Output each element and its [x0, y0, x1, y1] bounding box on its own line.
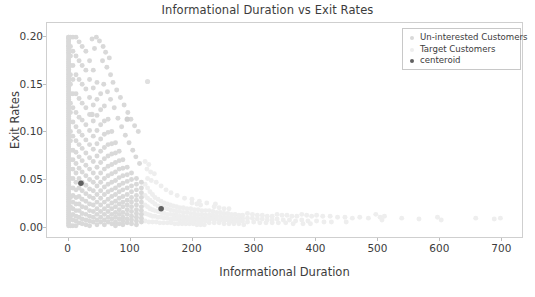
- x-tick-label: 600: [429, 242, 449, 254]
- legend-marker-icon: [407, 51, 417, 70]
- series-un-interested-customers: [66, 35, 144, 229]
- x-tick-label: 300: [243, 242, 263, 254]
- legend-item: Target Customers: [407, 43, 516, 54]
- legend-item-label: Un-interested Customers: [420, 32, 528, 42]
- y-tick-label: 0.20: [20, 30, 43, 42]
- legend-item-label: Target Customers: [420, 44, 496, 54]
- legend-item: Un-interested Customers: [407, 32, 516, 43]
- legend-item-label: centeroid: [420, 55, 461, 65]
- x-tick-mark: [377, 238, 378, 241]
- series-target-customers: [143, 159, 503, 227]
- y-tick-label: 0.05: [20, 173, 43, 185]
- x-tick-mark: [192, 238, 193, 241]
- x-tick-label: 0: [64, 242, 71, 254]
- centroid-point: [78, 180, 84, 186]
- y-tick-label: 0.10: [20, 125, 43, 137]
- x-tick-mark: [315, 238, 316, 241]
- x-tick-label: 700: [491, 242, 511, 254]
- centroid-point: [158, 206, 164, 212]
- x-axis-label: Informational Duration: [46, 265, 523, 279]
- chart-figure: Informational Duration vs Exit Rates Exi…: [0, 0, 535, 297]
- y-tick-label: 0.00: [20, 221, 43, 233]
- chart-title: Informational Duration vs Exit Rates: [0, 3, 535, 17]
- x-tick-label: 200: [182, 242, 202, 254]
- y-tick-label: 0.15: [20, 78, 43, 90]
- x-tick-label: 100: [120, 242, 140, 254]
- x-tick-mark: [501, 238, 502, 241]
- x-tick-label: 400: [305, 242, 325, 254]
- x-tick-mark: [130, 238, 131, 241]
- x-tick-mark: [439, 238, 440, 241]
- legend-item: centeroid: [407, 55, 516, 66]
- x-tick-mark: [68, 238, 69, 241]
- chart-legend: Un-interested CustomersTarget Customersc…: [402, 28, 521, 70]
- x-tick-mark: [254, 238, 255, 241]
- x-tick-label: 500: [367, 242, 387, 254]
